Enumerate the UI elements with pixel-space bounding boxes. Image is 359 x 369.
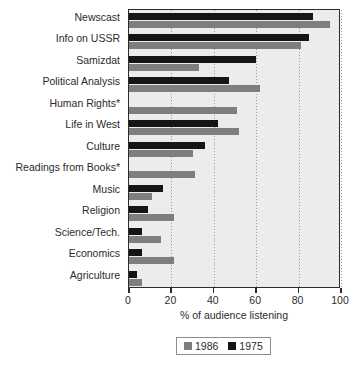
bar-group [129, 142, 339, 160]
plot-area [128, 9, 340, 288]
bar-1986-human-rights [129, 107, 237, 114]
bar-group [129, 163, 339, 181]
category-label-music: Music [0, 184, 120, 195]
bar-1986-political-analysis [129, 85, 260, 92]
bar-1986-life-in-west [129, 128, 239, 135]
bar-1975-science-tech [129, 228, 142, 235]
gridline-100 [341, 10, 342, 287]
bar-group [129, 228, 339, 246]
black-swatch-icon [228, 342, 236, 350]
bar-chart: NewscastInfo on USSRSamizdatPolitical An… [0, 0, 359, 369]
category-label-info-on-ussr: Info on USSR [0, 33, 120, 44]
bar-1975-newscast [129, 13, 313, 20]
bar-group [129, 249, 339, 267]
tick-label-40: 40 [193, 294, 233, 306]
category-label-newscast: Newscast [0, 12, 120, 23]
bar-1986-samizdat [129, 64, 199, 71]
bar-group [129, 271, 339, 289]
bar-group [129, 56, 339, 74]
bar-1986-newscast [129, 21, 330, 28]
category-axis-labels: NewscastInfo on USSRSamizdatPolitical An… [0, 9, 124, 288]
legend-item-1986: 1986 [184, 341, 218, 351]
category-label-culture: Culture [0, 141, 120, 152]
bar-1975-life-in-west [129, 120, 218, 127]
bar-group [129, 13, 339, 31]
category-label-science-tech: Science/Tech. [0, 227, 120, 238]
bar-1986-economics [129, 257, 174, 264]
tick-80 [298, 288, 300, 293]
category-label-agriculture: Agriculture [0, 270, 120, 281]
tick-0 [128, 288, 130, 293]
bar-1986-agriculture [129, 279, 142, 286]
gray-swatch-icon [184, 342, 192, 350]
bar-1986-music [129, 193, 152, 200]
tick-label-100: 100 [320, 294, 359, 306]
tick-label-60: 60 [235, 294, 275, 306]
legend-label-1975: 1975 [239, 341, 262, 351]
bar-group [129, 99, 339, 117]
bar-group [129, 206, 339, 224]
legend-item-1975: 1975 [228, 341, 262, 351]
bar-1986-religion [129, 214, 174, 221]
bar-1986-readings-from-books [129, 171, 195, 178]
category-label-life-in-west: Life in West [0, 119, 120, 130]
category-label-economics: Economics [0, 248, 120, 259]
bar-1975-religion [129, 206, 148, 213]
bar-group [129, 120, 339, 138]
bar-1975-agriculture [129, 271, 137, 278]
tick-label-80: 80 [278, 294, 318, 306]
bar-1975-political-analysis [129, 77, 229, 84]
category-label-readings-from-books: Readings from Books* [0, 162, 120, 173]
tick-40 [213, 288, 215, 293]
bar-group [129, 34, 339, 52]
bar-1975-info-on-ussr [129, 34, 309, 41]
legend-label-1986: 1986 [195, 341, 218, 351]
bar-1986-culture [129, 150, 193, 157]
x-axis-title: % of audience listening [128, 309, 340, 321]
tick-60 [255, 288, 257, 293]
bar-1975-music [129, 185, 163, 192]
bar-group [129, 185, 339, 203]
category-label-samizdat: Samizdat [0, 55, 120, 66]
bar-1975-samizdat [129, 56, 256, 63]
bar-1986-science-tech [129, 236, 161, 243]
tick-label-0: 0 [108, 294, 148, 306]
category-label-political-analysis: Political Analysis [0, 76, 120, 87]
category-label-religion: Religion [0, 205, 120, 216]
bar-group [129, 77, 339, 95]
x-axis-tick-labels: 020406080100 [0, 294, 359, 307]
bar-1975-economics [129, 249, 142, 256]
chart-legend: 1986 1975 [176, 337, 271, 355]
bar-1975-culture [129, 142, 205, 149]
tick-label-20: 20 [150, 294, 190, 306]
category-label-human-rights: Human Rights* [0, 98, 120, 109]
bar-1986-info-on-ussr [129, 42, 301, 49]
tick-20 [170, 288, 172, 293]
tick-100 [340, 288, 342, 293]
